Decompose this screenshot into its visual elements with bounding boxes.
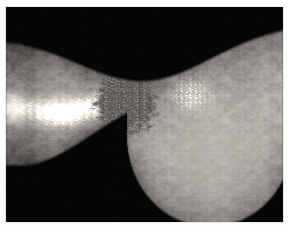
screenshot-root: skin lesion on limb (ankle/wrist region) (0, 0, 289, 232)
clinical-photograph-frame (6, 7, 283, 222)
clinical-photograph-image (6, 7, 283, 222)
